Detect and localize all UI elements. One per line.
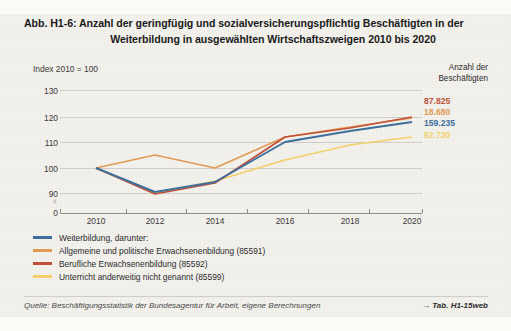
end-label-85591: 18.680 [424, 107, 488, 117]
x-tick-2016: 2016 [265, 216, 305, 226]
legend-swatch-icon-weiterbildung [33, 236, 52, 238]
x-tick-2012: 2012 [135, 216, 175, 226]
x-tick-mark-5 [369, 209, 370, 213]
legend-swatch-icon-85599 [33, 275, 52, 277]
figure-container: Abb. H1-6: Anzahl der geringfügig und so… [0, 0, 511, 331]
x-tick-mark-1 [126, 209, 127, 213]
end-label-85599: 52.730 [424, 130, 488, 140]
x-tick-mark-2 [186, 209, 187, 213]
legend-item-weiterbildung[interactable]: Weiterbildung, darunter: [33, 231, 265, 244]
table-reference-link[interactable]: → Tab. H1-15web [386, 301, 488, 310]
footer-divider [24, 296, 488, 297]
x-tick-2010: 2010 [76, 216, 116, 226]
x-tick-mark-start [60, 209, 61, 213]
legend-label-85592: Berufliche Erwachsenenbildung (85592) [59, 259, 208, 269]
x-tick-2014: 2014 [195, 216, 235, 226]
chart-legend: Weiterbildung, darunter: Allgemeine und … [33, 231, 265, 283]
bottom-margin-strip [0, 317, 511, 331]
legend-item-85592[interactable]: Berufliche Erwachsenenbildung (85592) [33, 257, 265, 270]
legend-label-85599: Unterricht anderweitig nicht genannt (85… [59, 272, 224, 282]
legend-label-weiterbildung: Weiterbildung, darunter: [59, 233, 148, 243]
x-tick-mark-4 [308, 209, 309, 213]
legend-swatch-icon-85592 [33, 262, 52, 264]
end-label-weiterbildung: 159.235 [424, 118, 488, 128]
x-tick-mark-3 [247, 209, 248, 213]
legend-item-85599[interactable]: Unterricht anderweitig nicht genannt (85… [33, 270, 265, 283]
legend-swatch-icon-85591 [33, 249, 52, 251]
x-axis-line [60, 213, 422, 214]
legend-item-85591[interactable]: Allgemeine und politische Erwachsenenbil… [33, 244, 265, 257]
source-note: Quelle: Beschäftigungsstatistik der Bund… [24, 301, 320, 310]
legend-label-85591: Allgemeine und politische Erwachsenenbil… [59, 246, 265, 256]
x-tick-2020: 2020 [392, 216, 432, 226]
x-tick-2018: 2018 [330, 216, 370, 226]
series-line-85599 [96, 137, 412, 193]
x-tick-mark-end [422, 209, 423, 213]
end-label-85592: 87.825 [424, 96, 488, 106]
